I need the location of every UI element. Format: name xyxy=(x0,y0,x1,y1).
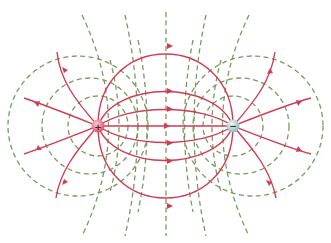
positive-sign: + xyxy=(94,122,102,132)
negative-sign: − xyxy=(229,121,237,131)
dipole-field-svg: + − xyxy=(0,0,331,243)
dipole-diagram: + − xyxy=(0,0,331,243)
negative-charge: − xyxy=(227,120,240,133)
positive-charge: + xyxy=(92,120,105,133)
field-arrows xyxy=(34,43,302,209)
